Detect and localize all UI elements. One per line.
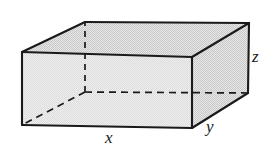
edge-top-back [85,22,249,23]
dimension-label-x: x [105,129,113,146]
dimension-label-z: z [252,48,259,65]
rectangular-box-figure: x y z [0,0,267,153]
box-face-front [22,52,192,128]
dimension-label-y: y [206,118,214,135]
edge-right-back-vertical [248,23,249,93]
box-diagram-svg [0,0,267,153]
